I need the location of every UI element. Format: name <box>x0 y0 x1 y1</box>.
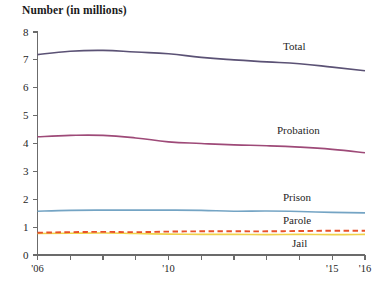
series-line-parole <box>38 231 366 233</box>
series-line-jail <box>38 233 366 235</box>
series-line-total <box>38 50 366 70</box>
series-label-jail: Jail <box>292 238 307 249</box>
y-axis-tick-label: 8 <box>11 27 29 38</box>
y-axis-tick-label: 0 <box>11 250 29 261</box>
y-axis-tick-label: 5 <box>11 110 29 121</box>
y-axis-tick-label: 6 <box>11 82 29 93</box>
x-axis-tick-label: '06 <box>31 264 43 275</box>
y-axis-tick-label: 1 <box>11 222 29 233</box>
y-axis-tick-label: 2 <box>11 194 29 205</box>
series-label-prison: Prison <box>283 192 311 203</box>
y-axis-tick-label: 3 <box>11 166 29 177</box>
series-label-probation: Probation <box>277 125 320 136</box>
series-line-prison <box>38 210 366 213</box>
x-axis-tick-label: '10 <box>162 264 174 275</box>
x-axis-tick-label: '16 <box>359 264 371 275</box>
x-axis-tick-label: '15 <box>326 264 338 275</box>
y-axis-tick-label: 4 <box>11 138 29 149</box>
series-label-total: Total <box>283 41 305 52</box>
series-line-probation <box>38 135 366 153</box>
chart-plot-area <box>0 0 377 291</box>
y-axis-tick-label: 7 <box>11 54 29 65</box>
series-label-parole: Parole <box>283 215 311 226</box>
chart-figure: Number (in millions) 012345678'06'10'15'… <box>0 0 377 291</box>
